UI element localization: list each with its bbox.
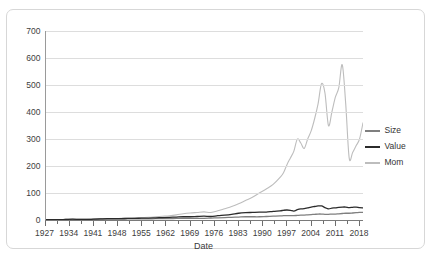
chart-legend: SizeValueMom xyxy=(365,123,431,171)
x-axis-tick-label: 2018 xyxy=(350,228,369,238)
legend-swatch-icon xyxy=(365,146,380,148)
x-axis-tickmark-minor xyxy=(226,221,227,224)
x-axis-tickmark-minor xyxy=(323,221,324,224)
x-axis-tick-label: 1976 xyxy=(204,228,223,238)
gridline xyxy=(45,139,363,140)
x-axis-tickmark-minor xyxy=(274,221,275,224)
gridline xyxy=(45,112,363,113)
x-axis-tick-label: 1941 xyxy=(83,228,102,238)
legend-label: Value xyxy=(385,142,406,151)
x-axis-tick-labels: 1927193419411948195519621969197619831990… xyxy=(7,228,432,240)
x-axis-tickmark-major xyxy=(117,221,118,226)
gridline xyxy=(45,58,363,59)
x-axis-tickmark-major xyxy=(45,221,46,226)
x-axis-tickmark-minor xyxy=(57,221,58,224)
x-axis-tickmark-major xyxy=(335,221,336,226)
x-axis-tickmark-major xyxy=(262,221,263,226)
gridline xyxy=(45,31,363,32)
gridline xyxy=(45,85,363,86)
x-axis-tickmark-major xyxy=(286,221,287,226)
y-axis-tick-label: 400 xyxy=(26,107,40,117)
x-axis-tickmark-minor xyxy=(129,221,130,224)
y-axis-tick-label: 300 xyxy=(26,134,40,144)
x-axis-tick-label: 1927 xyxy=(35,228,54,238)
series-line-value xyxy=(45,205,363,219)
y-axis-tick-label: 100 xyxy=(26,188,40,198)
x-axis-tickmark-major xyxy=(238,221,239,226)
x-axis-title: Date xyxy=(45,241,363,251)
x-axis-tick-label: 1969 xyxy=(180,228,199,238)
legend-item-value[interactable]: Value xyxy=(365,139,431,155)
x-axis-tickmark-major xyxy=(214,221,215,226)
x-axis-tickmark-minor xyxy=(178,221,179,224)
y-axis-tick-label: 0 xyxy=(36,215,41,225)
x-axis-tickmark-minor xyxy=(202,221,203,224)
legend-swatch-icon xyxy=(365,130,380,132)
x-axis-tick-label: 2004 xyxy=(301,228,320,238)
legend-item-size[interactable]: Size xyxy=(365,123,431,139)
x-axis-tickmark-major xyxy=(69,221,70,226)
x-axis-tickmark-major xyxy=(165,221,166,226)
x-axis-tickmark-major xyxy=(141,221,142,226)
legend-label: Size xyxy=(385,126,402,135)
x-axis-tickmark-major xyxy=(190,221,191,226)
y-axis-tick-label: 600 xyxy=(26,53,40,63)
x-axis-tickmark-minor xyxy=(250,221,251,224)
y-axis-tick-labels: 0100200300400500600700 xyxy=(7,31,41,221)
x-axis-tickmarks xyxy=(45,221,363,227)
chart-panel: 0100200300400500600700 19271934194119481… xyxy=(6,9,425,249)
x-axis-tickmark-minor xyxy=(153,221,154,224)
plot-area xyxy=(45,31,363,220)
x-axis-tickmark-major xyxy=(359,221,360,226)
y-axis-line xyxy=(45,31,46,221)
y-axis-tick-label: 200 xyxy=(26,161,40,171)
x-axis-tick-label: 1955 xyxy=(132,228,151,238)
x-axis-tickmark-minor xyxy=(105,221,106,224)
legend-swatch-icon xyxy=(365,162,380,164)
chart-screenshot: 0100200300400500600700 19271934194119481… xyxy=(0,0,432,261)
series-layer xyxy=(45,31,363,220)
x-axis-tick-label: 1983 xyxy=(229,228,248,238)
x-axis-tickmark-minor xyxy=(81,221,82,224)
x-axis-tickmark-major xyxy=(93,221,94,226)
gridline xyxy=(45,166,363,167)
y-axis-tick-label: 700 xyxy=(26,26,40,36)
x-axis-tickmark-minor xyxy=(299,221,300,224)
legend-item-mom[interactable]: Mom xyxy=(365,155,431,171)
gridline xyxy=(45,193,363,194)
legend-label: Mom xyxy=(385,158,404,167)
x-axis-tickmark-major xyxy=(311,221,312,226)
x-axis-tickmark-minor xyxy=(347,221,348,224)
x-axis-tick-label: 1934 xyxy=(59,228,78,238)
x-axis-tick-label: 1990 xyxy=(253,228,272,238)
series-line-mom xyxy=(45,64,363,219)
clipped-top-text xyxy=(0,0,432,7)
x-axis-tick-label: 1997 xyxy=(277,228,296,238)
x-axis-tick-label: 2011 xyxy=(326,228,344,238)
y-axis-tick-label: 500 xyxy=(26,80,40,90)
x-axis-tick-label: 1962 xyxy=(156,228,175,238)
x-axis-tick-label: 1948 xyxy=(108,228,127,238)
